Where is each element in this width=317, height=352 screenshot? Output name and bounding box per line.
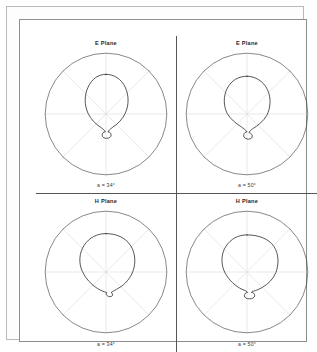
polar-grid <box>45 53 167 175</box>
panel-caption: a = 50° <box>177 340 317 348</box>
polar-grid <box>45 211 167 333</box>
panel-h-plane-50: H Plane a = 50 <box>177 194 317 352</box>
polar-chart-svg <box>42 208 170 336</box>
polar-chart-svg <box>42 50 170 178</box>
figure-root: E Plane a = 34 <box>0 0 314 348</box>
figure-outer-frame: E Plane a = 34 <box>6 6 304 340</box>
polar-grid <box>186 211 308 333</box>
polar-chart-svg <box>183 50 311 178</box>
polar-plot-e-plane-50 <box>177 46 317 181</box>
radiation-pattern-curve <box>80 234 135 297</box>
panel-caption: a = 50° <box>177 181 317 189</box>
panel-caption: a = 34° <box>36 340 176 348</box>
radiation-pattern-curve <box>222 235 278 299</box>
panel-e-plane-50: E Plane a = 50 <box>177 36 317 194</box>
polar-plot-h-plane-34 <box>36 204 176 340</box>
panel-grid: E Plane a = 34 <box>36 36 317 352</box>
polar-plot-e-plane-34 <box>36 46 176 181</box>
panel-caption: a = 34° <box>36 181 176 189</box>
panel-e-plane-34: E Plane a = 34 <box>36 36 177 194</box>
figure-inner-frame: E Plane a = 34 <box>19 19 307 342</box>
panel-h-plane-34: H Plane a = 34 <box>36 194 177 352</box>
polar-grid <box>186 53 308 175</box>
polar-plot-h-plane-50 <box>177 204 317 340</box>
polar-chart-svg <box>183 208 311 336</box>
